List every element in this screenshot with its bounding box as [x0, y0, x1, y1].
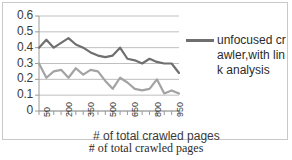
- chart-object-frame[interactable]: 0.60.50.40.30.20.1050200350500650800950 …: [2, 2, 288, 140]
- figure-caption: # of total crawled pages: [0, 141, 292, 156]
- y-tick-label: 0.5: [3, 25, 33, 37]
- chart-legend: unfocused crawler,with link analysis: [186, 33, 290, 78]
- y-tick-label: 0.2: [3, 72, 33, 84]
- figure: 0.60.50.40.30.20.1050200350500650800950 …: [0, 0, 292, 160]
- x-tick-label: 350: [87, 102, 96, 117]
- x-tick-label: 650: [131, 102, 140, 117]
- y-tick-label: 0.4: [3, 41, 33, 53]
- legend-color-swatch: [186, 39, 214, 42]
- x-tick-label: 200: [65, 102, 74, 117]
- y-tick-label: 0: [3, 104, 33, 116]
- x-tick-label: 800: [154, 102, 163, 117]
- legend-label: unfocused crawler,with link analysis: [217, 33, 289, 78]
- legend-entry: unfocused crawler,with link analysis: [186, 33, 290, 78]
- x-tick-label: 500: [109, 102, 118, 117]
- series-line-2: [39, 64, 179, 94]
- y-tick-label: 0.3: [3, 57, 33, 69]
- x-tick-label: 950: [176, 102, 185, 117]
- series-line-1: [39, 38, 179, 73]
- x-tick-label: 50: [43, 107, 52, 117]
- y-tick-label: 0.1: [3, 88, 33, 100]
- y-tick-label: 0.6: [3, 9, 33, 21]
